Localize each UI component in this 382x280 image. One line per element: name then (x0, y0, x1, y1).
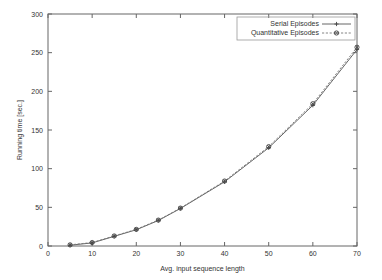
legend-label-0: Serial Episodes (270, 20, 319, 28)
y-axis-title: Running time [sec.] (16, 100, 24, 160)
x-tick-label: 0 (46, 250, 50, 257)
x-tick-label: 10 (88, 250, 96, 257)
x-axis-title: Avg. input sequence length (160, 265, 244, 273)
y-tick-label: 150 (31, 127, 43, 134)
y-tick-label: 200 (31, 88, 43, 95)
y-tick-label: 50 (35, 204, 43, 211)
x-tick-label: 20 (132, 250, 140, 257)
x-tick-label: 60 (309, 250, 317, 257)
y-tick-label: 0 (39, 243, 43, 250)
y-tick-label: 250 (31, 49, 43, 56)
x-tick-label: 70 (353, 250, 361, 257)
chart-figure: 050100150200250300 010203040506070 Avg. … (0, 0, 382, 280)
legend-label-1: Quantitative Episodes (251, 29, 320, 37)
x-tick-label: 30 (177, 250, 185, 257)
chart-background (0, 0, 382, 280)
chart-canvas: 050100150200250300 010203040506070 Avg. … (0, 0, 382, 280)
y-tick-label: 300 (31, 11, 43, 18)
x-tick-label: 40 (221, 250, 229, 257)
x-tick-label: 50 (265, 250, 273, 257)
y-tick-label: 100 (31, 165, 43, 172)
